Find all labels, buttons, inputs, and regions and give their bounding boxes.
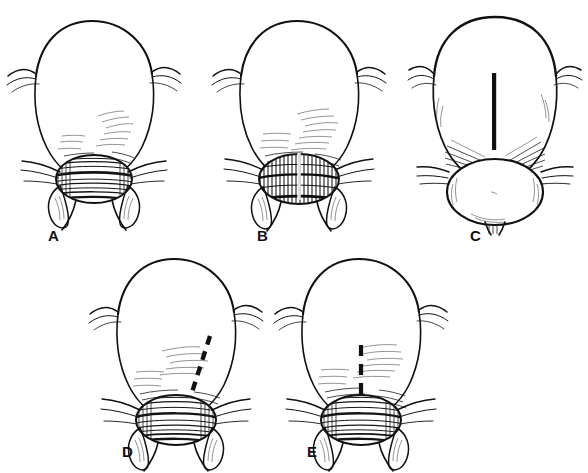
- figure-canvas: A: [0, 0, 588, 473]
- panel-label-e: E: [307, 444, 317, 459]
- panel-b: B: [205, 6, 395, 236]
- bladder-body-b: [239, 20, 358, 176]
- panel-a-drawing: [0, 6, 190, 236]
- urethra-b: [267, 202, 331, 231]
- panel-b-drawing: [205, 6, 395, 236]
- panel-label-b: B: [257, 228, 268, 243]
- lower-bulb-c: [447, 159, 543, 235]
- urethra-a: [62, 200, 126, 230]
- urethra-d: [144, 443, 208, 471]
- panel-d-drawing: [82, 248, 272, 473]
- panel-e-drawing: [267, 248, 457, 473]
- bladder-body-d: [116, 258, 235, 414]
- panel-e: E: [267, 248, 457, 473]
- panel-label-a: A: [48, 228, 59, 243]
- bladder-body-a: [34, 20, 153, 176]
- panel-label-c: C: [470, 228, 481, 243]
- panel-label-d: D: [122, 444, 133, 459]
- panel-a: A: [0, 6, 190, 236]
- panel-c-drawing: [405, 6, 588, 236]
- panel-d: D: [82, 248, 272, 473]
- panel-c: C: [405, 6, 588, 236]
- urethra-e: [329, 443, 393, 471]
- incision-bar-c: [492, 73, 496, 150]
